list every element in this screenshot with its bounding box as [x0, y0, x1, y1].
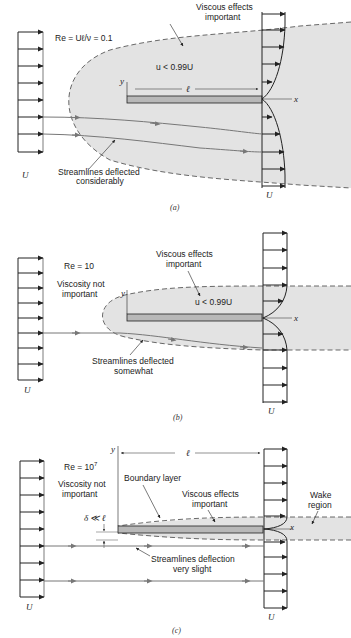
- caption-b: (b): [173, 413, 183, 422]
- flat-plate-flow-diagram: U Re = Uℓ/ν = 0.1 Viscous effects import…: [0, 0, 351, 638]
- viscous-label-c-2: important: [192, 499, 228, 509]
- U-left-b: U: [24, 385, 31, 395]
- viscosity-not-b-1: Viscosity not: [57, 279, 105, 289]
- viscous-label-a-1: Viscous effects: [196, 2, 253, 12]
- flat-plate-a: [127, 96, 262, 103]
- viscosity-not-c-2: important: [62, 489, 98, 499]
- U-left-c: U: [26, 602, 33, 612]
- y-axis-b: y: [120, 288, 125, 298]
- wake-label-2: region: [308, 500, 332, 510]
- u-label-b: u < 0.99U: [195, 297, 232, 307]
- length-label-a: ℓ: [186, 84, 190, 94]
- streamline-label-b-1: Streamlines deflected: [92, 356, 174, 366]
- streamline-label-c-1: Streamlines deflection: [151, 554, 235, 564]
- u-label-a: u < 0.99U: [156, 62, 193, 72]
- viscous-label-a-2: important: [205, 12, 241, 22]
- panel-a: U Re = Uℓ/ν = 0.1 Viscous effects import…: [18, 2, 351, 212]
- viscous-label-b-1: Viscous effects: [156, 249, 213, 259]
- streamline-label-a-2: considerably: [76, 176, 124, 186]
- y-axis-a: y: [119, 76, 124, 86]
- uniform-profile-left-a: [18, 32, 43, 152]
- panel-c: U Re = 107 Viscosity not important Bound…: [20, 444, 351, 635]
- x-axis-a: x: [293, 94, 298, 104]
- caption-c: (c): [172, 626, 181, 635]
- reynolds-label-c: Re = 107: [64, 461, 98, 472]
- viscosity-not-b-2: important: [62, 289, 98, 299]
- x-axis-c: x: [289, 522, 294, 532]
- streamline-label-c-2: very slight: [173, 564, 212, 574]
- flat-plate-b: [127, 314, 262, 321]
- uniform-profile-left-b: [18, 258, 43, 380]
- viscous-label-b-2: important: [166, 259, 202, 269]
- caption-a: (a): [170, 203, 180, 212]
- U-right-a: U: [266, 190, 273, 200]
- flat-plate-c: [118, 526, 263, 533]
- boundary-layer-label: Boundary layer: [124, 473, 181, 483]
- viscous-label-c-1: Viscous effects: [182, 489, 239, 499]
- reynolds-label-a: Re = Uℓ/ν = 0.1: [55, 33, 113, 43]
- uniform-profile-left-c: [20, 461, 44, 597]
- y-axis-c: y: [110, 444, 115, 454]
- wake-label-1: Wake: [310, 490, 332, 500]
- U-left-a: U: [22, 170, 29, 180]
- viscous-region-a: [69, 22, 351, 188]
- length-label-c: ℓ: [186, 448, 190, 458]
- U-right-c: U: [268, 612, 275, 622]
- x-axis-b: x: [293, 313, 298, 323]
- U-right-b: U: [268, 406, 275, 416]
- delta-label: δ ≪ ℓ: [84, 513, 106, 523]
- streamline-label-b-2: somewhat: [114, 366, 153, 376]
- viscosity-not-c-1: Viscosity not: [58, 479, 106, 489]
- reynolds-label-b: Re = 10: [64, 261, 94, 271]
- panel-b: U Re = 10 Viscosity not important Viscou…: [18, 233, 351, 422]
